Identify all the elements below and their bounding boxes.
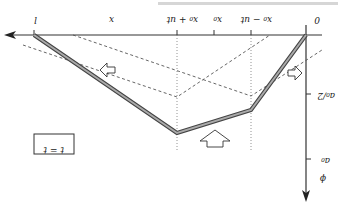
right-arrow-icon: [288, 66, 302, 80]
caption-fragment: [158, 2, 338, 5]
solution-profile: [34, 35, 306, 133]
y-axis: [302, 25, 311, 202]
x-tick-zero: 0: [314, 15, 320, 25]
time-label-box: t = t: [34, 134, 74, 155]
x-tick-x0-minus-ut: x₀ − ut: [240, 15, 272, 25]
y-tick-labels: a₀/2 a₀ ϕ: [317, 91, 335, 184]
x-tick-x0: x₀: [213, 15, 222, 25]
x-tick-x0-plus-ut: x₀ + ut: [166, 15, 198, 25]
x-tick-labels: l x x₀ + ut x₀ x₀ − ut 0: [34, 15, 320, 25]
x-tick-l: l: [34, 15, 37, 25]
y-tick-a0: a₀: [321, 156, 330, 166]
x-axis: [4, 30, 322, 39]
diagram-root: l x x₀ + ut x₀ x₀ − ut 0 a₀/2 a₀ ϕ t = t: [0, 0, 343, 207]
y-tick-a0-half: a₀/2: [317, 91, 335, 101]
time-label: t = t: [43, 145, 64, 155]
y-axis-label: ϕ: [320, 174, 326, 184]
dashed-profiles: [23, 35, 322, 97]
x-axis-label: x: [109, 15, 114, 25]
dashed-profile-left-shift: [23, 35, 270, 97]
up-arrow-icon: [200, 130, 230, 147]
diagram-canvas: l x x₀ + ut x₀ x₀ − ut 0 a₀/2 a₀ ϕ t = t: [0, 0, 343, 207]
